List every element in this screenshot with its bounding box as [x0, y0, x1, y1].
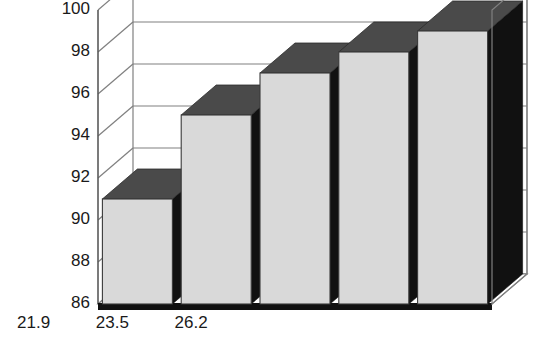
bar-front-face [102, 199, 172, 304]
bar-front-face [339, 52, 409, 304]
y-tick-label: 94 [71, 125, 90, 145]
axis-depth-connector [98, 64, 133, 94]
y-tick-label: 98 [71, 41, 90, 61]
y-tick-label: 96 [71, 83, 90, 103]
bar-front-face [181, 115, 251, 304]
bar-front-face [260, 73, 330, 304]
axis-depth-connector [98, 106, 133, 136]
y-tick-label: 92 [71, 167, 90, 187]
y-tick-label: 88 [71, 251, 90, 271]
x-tick-label: 26.2 [175, 313, 556, 333]
y-tick-label: 90 [71, 209, 90, 229]
axis-depth-connector [98, 148, 133, 178]
y-tick-label: 86 [71, 293, 90, 313]
bar-front-face [418, 31, 488, 304]
bar-26.2 [418, 1, 523, 304]
bar-side-face [488, 1, 523, 304]
y-tick-label: 100 [62, 0, 90, 19]
axis-depth-connector [98, 0, 133, 10]
axis-depth-connector [98, 22, 133, 52]
chart-figure: 8688909294969810017.419.821.923.526.2 [0, 0, 556, 357]
